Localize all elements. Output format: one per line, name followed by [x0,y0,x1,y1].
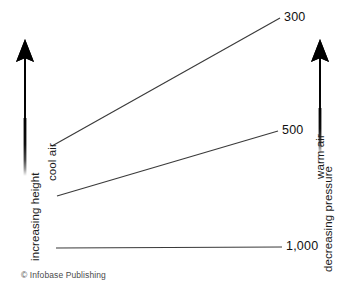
decreasing-pressure-label: decreasing pressure [322,166,334,272]
pressure-surface-line [56,247,282,248]
pressure-value-label: 300 [284,10,305,24]
figure-canvas: 3005001,000 cool air increasing height w… [0,0,346,293]
increasing-height-label: increasing height [29,172,41,261]
pressure-surface-lines [52,18,282,248]
pressure-value-label: 500 [282,123,303,137]
left-up-arrow-icon [16,39,34,176]
pressure-value-label: 1,000 [286,239,318,253]
pressure-surface-line [52,18,280,146]
copyright-credit: © Infobase Publishing [21,270,106,280]
cool-air-label: cool air [46,143,58,181]
pressure-surface-line [57,131,278,196]
